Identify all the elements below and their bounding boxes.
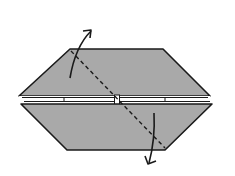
origami-diagram (0, 0, 235, 176)
lower-flap (21, 104, 212, 150)
upper-flap (19, 49, 210, 96)
